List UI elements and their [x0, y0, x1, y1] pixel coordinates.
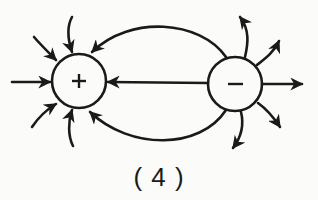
field-line-in-lower-left	[32, 104, 56, 127]
plus-sign-icon	[72, 74, 86, 88]
field-line-in-bottom	[69, 110, 73, 146]
figure-caption: ( 4 )	[0, 162, 318, 193]
field-line-center	[108, 82, 208, 83]
field-line-in-top	[68, 17, 72, 52]
field-line-out-upper-right	[257, 41, 279, 65]
field-line-top-arc	[92, 27, 226, 57]
field-line-in-upper-left	[34, 37, 56, 60]
field-line-out-lower-right	[258, 103, 280, 127]
field-line-out-bottom	[233, 112, 242, 148]
field-line-bottom-arc	[90, 110, 226, 140]
field-line-out-top	[240, 17, 247, 57]
